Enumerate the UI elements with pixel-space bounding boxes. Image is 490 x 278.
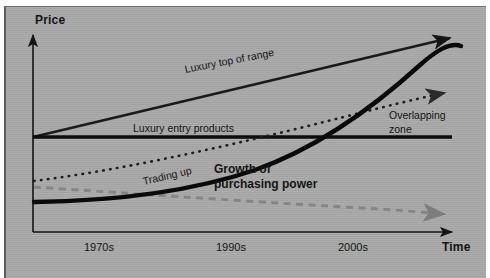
chart-canvas	[0, 0, 490, 278]
label-growth-line1: Growth of	[214, 163, 271, 176]
x-tick-1970s: 1970s	[84, 241, 114, 253]
x-tick-2000s: 2000s	[338, 241, 368, 253]
x-tick-1990s: 1990s	[216, 241, 246, 253]
chart-figure: Price Time 1970s 1990s 2000s Luxury top …	[0, 0, 490, 278]
label-luxury-entry-products: Luxury entry products	[133, 123, 234, 135]
y-axis-title: Price	[35, 14, 65, 27]
label-overlapping-zone-line1: Overlapping	[389, 110, 446, 122]
x-axis-title: Time	[442, 241, 471, 254]
label-overlapping-zone-line2: zone	[389, 124, 412, 136]
label-growth-line2: purchasing power	[214, 178, 317, 191]
